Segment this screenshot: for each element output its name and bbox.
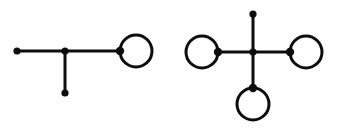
self-loop-right	[290, 36, 322, 68]
self-loop-bottom	[237, 88, 269, 120]
self-loop-left	[186, 36, 218, 68]
left-endpoint-vertex	[13, 47, 20, 54]
right-graph	[186, 10, 322, 120]
left-graph	[13, 35, 152, 97]
top-pendant-vertex	[249, 10, 256, 17]
center-junction-vertex	[249, 48, 256, 55]
graph-diagram-canvas	[0, 0, 341, 129]
graph-pair-figure	[0, 0, 341, 129]
right-loop-vertex	[286, 48, 294, 56]
right-loop-vertex	[116, 47, 124, 55]
bottom-loop-vertex	[249, 84, 257, 92]
bottom-pendant-vertex	[61, 89, 68, 96]
self-loop-right	[120, 35, 152, 67]
center-junction-vertex	[61, 47, 68, 54]
left-loop-vertex	[214, 48, 222, 56]
